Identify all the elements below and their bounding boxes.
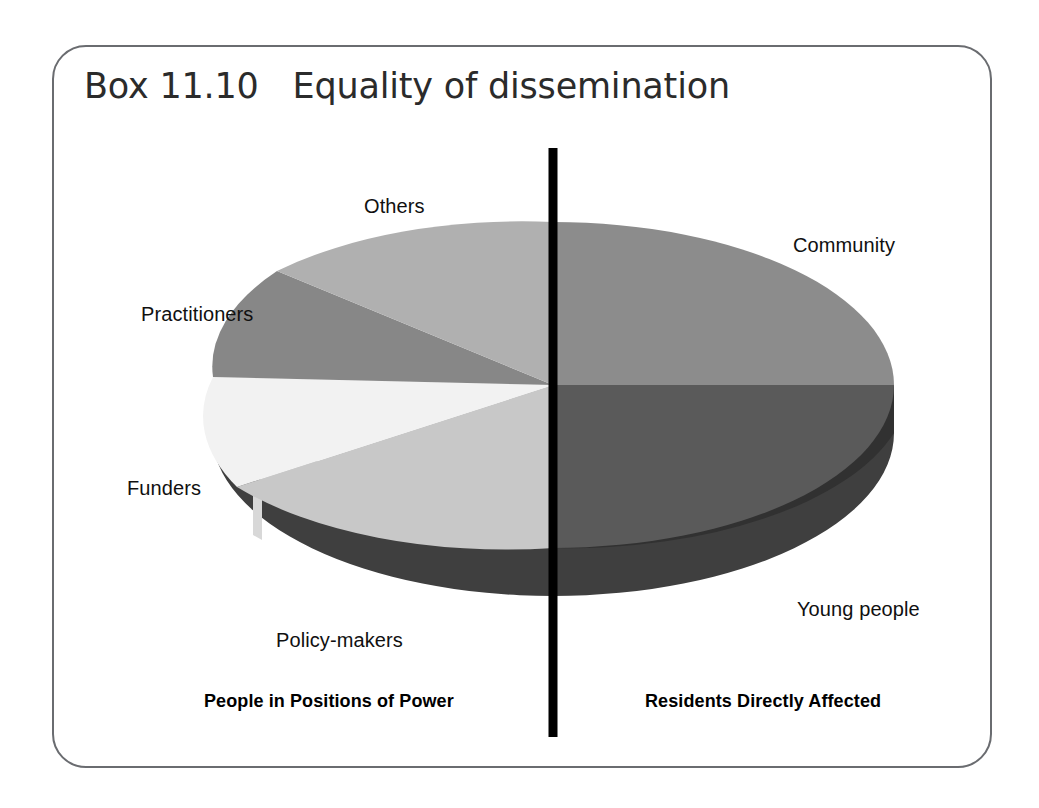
slice-label-others: Others <box>364 195 425 218</box>
box-heading: Box 11.10 Equality of dissemination <box>84 66 730 106</box>
group-caption-left: People in Positions of Power <box>204 691 454 712</box>
box-number: Box 11.10 <box>84 66 259 106</box>
box-title: Equality of dissemination <box>293 66 730 106</box>
box-frame <box>52 45 992 768</box>
slice-label-community: Community <box>793 234 895 257</box>
group-caption-right: Residents Directly Affected <box>645 691 881 712</box>
slice-label-young-people: Young people <box>797 598 920 621</box>
slice-label-funders: Funders <box>127 477 201 500</box>
slice-label-policy-makers: Policy-makers <box>276 629 403 652</box>
slice-label-practitioners: Practitioners <box>141 303 253 326</box>
screenshot-page: Box 11.10 Equality of dissemination <box>0 0 1039 808</box>
